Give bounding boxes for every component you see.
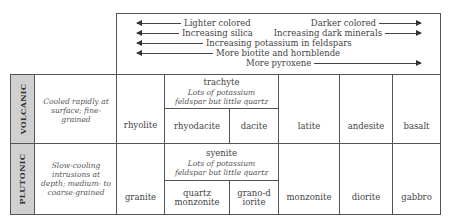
arrow-row-biotite: More biotite and hornblende [137,48,347,58]
rock-granodiorite: grano-diorite [236,181,272,214]
increasing-silica-label: Increasing silica [179,28,256,38]
trachyte-note: Lots of potassium feldspar but little qu… [172,88,272,106]
arrow-row-silica-dark: Increasing silica Increasing dark minera… [137,28,421,38]
more-biotite-label: More biotite and hornblende [213,48,343,58]
rock-dacite: dacite [230,109,278,143]
rock-latite: latite [279,109,339,143]
arrow-row-pyroxene: More pyroxene [243,58,421,68]
plutonic-description: Slow-cooling intrusions at depth; medium… [40,146,112,212]
trachyte-group: trachyte Lots of potassium feldspar but … [165,75,278,108]
rock-rhyodacite: rhyodacite [165,109,229,143]
plutonic-label-cell: PLUTONIC [11,144,34,214]
volcanic-description: Cooled rapidly at surface; fine-grained [40,86,112,134]
rock-basalt: basalt [393,109,440,143]
rock-andesite: andesite [340,109,392,143]
rock-syenite: syenite [206,148,237,158]
more-pyroxene-label: More pyroxene [243,58,314,68]
increasing-dark-minerals-label: Increasing dark minerals [271,28,385,38]
rock-diorite: diorite [340,181,392,214]
volcanic-label-cell: VOLCANIC [11,75,34,143]
volcanic-label: VOLCANIC [18,83,28,134]
rock-monzonite: monzonite [279,181,339,214]
arrow-row-potassium: Increasing potassium in feldspars [137,38,347,48]
plutonic-label: PLUTONIC [18,154,28,205]
rock-rhyolite: rhyolite [117,115,164,135]
darker-colored-label: Darker colored [308,18,379,28]
syenite-group: syenite Lots of potassium feldspar but l… [165,144,278,180]
lighter-colored-label: Lighter colored [181,18,254,28]
increasing-potassium-label: Increasing potassium in feldspars [203,38,355,48]
rock-quartz-monzonite: quartz monzonite [170,181,224,214]
arrow-row-lighter-darker: Lighter colored Darker colored [137,18,421,28]
rock-trachyte: trachyte [203,77,239,87]
rock-gabbro: gabbro [393,181,440,214]
rock-granite: granite [117,181,164,214]
syenite-note: Lots of potassium feldspar but little qu… [172,159,272,177]
